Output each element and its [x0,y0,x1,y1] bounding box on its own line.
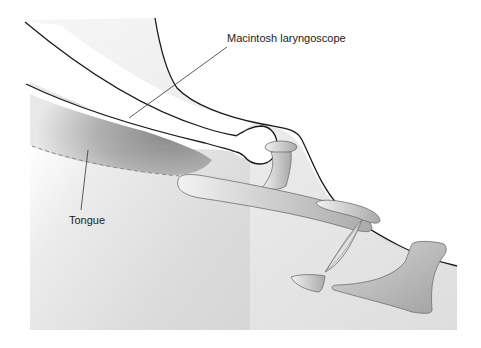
diagram-canvas [0,0,481,348]
label-macintosh-laryngoscope: Macintosh laryngoscope [227,33,346,44]
label-tongue: Tongue [69,215,105,226]
laryngoscopy-diagram: Macintosh laryngoscope Tongue [0,0,481,348]
epiglottis-cap [265,141,297,153]
